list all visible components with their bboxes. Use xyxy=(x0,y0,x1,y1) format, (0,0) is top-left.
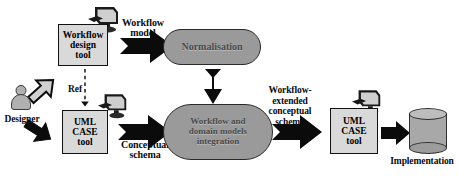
edge-normalisation-to-integration-arrow xyxy=(204,68,222,104)
ref-edge-label: Ref xyxy=(58,85,82,95)
uml-case-tool-right-box[interactable]: UML CASE tool xyxy=(330,108,378,154)
designer-label: Designer xyxy=(0,115,44,125)
workflow-design-tool-box[interactable]: Workflow design tool xyxy=(58,24,108,66)
cylinder-top xyxy=(409,108,447,120)
workflow-model-edge-label: Workflow model xyxy=(112,18,174,38)
implementation-database-icon xyxy=(409,108,447,154)
uml-case-tool-left-box[interactable]: UML CASE tool xyxy=(62,110,108,154)
diagram-canvas: Designer Workflow design tool Workflow m… xyxy=(0,0,458,178)
workflow-design-tool-label: Workflow design tool xyxy=(63,30,104,60)
uml-case-tool-left-label: UML CASE tool xyxy=(72,117,97,147)
designer-actor-icon xyxy=(8,85,34,112)
workflow-extended-conceptual-schema-edge-label: Workflow- extended conceptual schema xyxy=(258,85,322,128)
integration-node[interactable]: Workflow and domain models integration xyxy=(163,104,273,160)
normalisation-node[interactable]: Normalisation xyxy=(163,29,261,65)
normalisation-label: Normalisation xyxy=(181,42,242,53)
integration-label: Workflow and domain models integration xyxy=(189,117,247,146)
cylinder-bottom xyxy=(409,142,447,154)
implementation-label: Implementation xyxy=(386,157,458,167)
edge-ref-dashed xyxy=(81,69,89,107)
uml-case-tool-right-label: UML CASE tool xyxy=(341,116,366,146)
actor-body xyxy=(11,94,31,110)
edge-uml-to-implementation-arrow xyxy=(381,121,410,145)
